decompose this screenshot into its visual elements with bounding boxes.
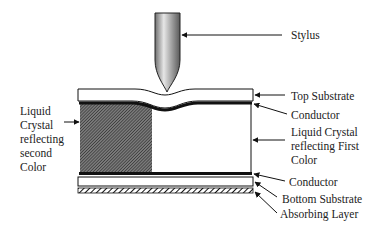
- label-top-substrate: Top Substrate: [291, 89, 354, 103]
- label-lc-second-line1: Liquid: [20, 104, 51, 118]
- stylus-icon: [155, 13, 180, 92]
- label-conductor-bottom: Conductor: [289, 175, 338, 189]
- label-lc-first-line1: Liquid Crystal: [291, 125, 358, 139]
- label-conductor-top: Conductor: [291, 108, 340, 122]
- arrow-conductor-bottom: [254, 174, 285, 181]
- absorbing-layer: [78, 188, 253, 193]
- label-absorbing-layer: Absorbing Layer: [280, 207, 358, 221]
- label-lc-second-line5: Color: [20, 160, 46, 174]
- arrow-conductor-top: [254, 104, 287, 114]
- bottom-substrate: [78, 177, 253, 186]
- label-bottom-substrate: Bottom Substrate: [282, 192, 362, 206]
- label-lc-first-line2: reflecting First: [291, 139, 359, 153]
- label-lc-second-line4: second: [20, 146, 52, 160]
- label-lc-second-line2: Crystal: [20, 118, 53, 132]
- liquid-crystal-second-color-region: [80, 103, 152, 173]
- label-lc-second-line3: reflecting: [20, 132, 64, 146]
- label-stylus: Stylus: [291, 28, 320, 42]
- label-lc-first-line3: Color: [291, 153, 317, 167]
- bottom-conductor: [79, 172, 252, 175]
